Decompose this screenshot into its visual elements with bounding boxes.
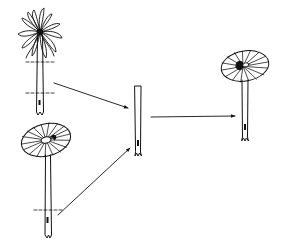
stem-icon: [37, 35, 44, 115]
diagram-canvas: [0, 0, 286, 250]
radial-cap-icon: [219, 47, 271, 85]
mushroom-radial: [18, 118, 74, 238]
shaggy-cap-icon: [18, 8, 62, 58]
arrow-bottom-to-segment: [58, 148, 130, 215]
mushroom-regenerated: [219, 47, 271, 141]
mushroom-shaggy: [18, 8, 62, 115]
arrow-segment-to-regenerated: [151, 116, 235, 117]
arrow-top-to-segment: [54, 83, 128, 108]
stem-icon: [242, 80, 249, 141]
radial-cap-icon: [18, 118, 74, 161]
stem-icon: [45, 155, 52, 238]
stem-segment: [135, 86, 142, 156]
